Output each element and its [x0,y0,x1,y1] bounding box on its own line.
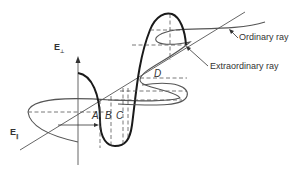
e-perp-sub: ⊥ [60,48,64,54]
wave-diagram [0,0,299,170]
segment-a-label: A [92,111,99,121]
segment-c-label: C [116,111,123,121]
segment-d-label: D [154,69,161,79]
e-par-sub: ∥ [16,133,19,139]
segment-b-label: B [105,111,112,121]
e-perp-arrowhead [76,56,81,63]
phase-arrowhead [94,123,99,127]
extraordinary-ray-label: Extraordinary ray [210,62,279,71]
d-lobe [118,83,187,105]
e-perp-label: E⊥ [54,43,64,54]
propagation-axis [20,12,245,150]
e-par-label: E∥ [10,128,19,139]
vertical-guides [100,14,170,148]
extraordinary-leader [188,48,208,66]
ordinary-ray-label: Ordinary ray [239,33,289,42]
